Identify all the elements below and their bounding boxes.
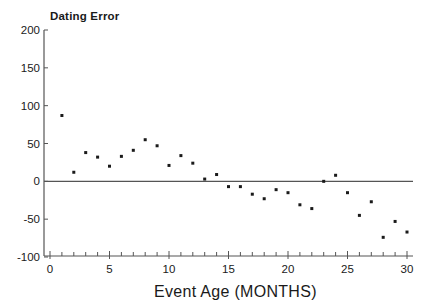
- data-point: [120, 155, 123, 158]
- data-point: [108, 165, 111, 168]
- data-point: [227, 185, 230, 188]
- data-point: [346, 191, 349, 194]
- data-point: [203, 178, 206, 181]
- y-tick-label: 100: [21, 100, 40, 112]
- data-point: [156, 144, 159, 147]
- data-point: [132, 149, 135, 152]
- data-point: [275, 188, 278, 191]
- data-point: [322, 180, 325, 183]
- x-tick-label: 15: [222, 263, 235, 275]
- data-point: [298, 203, 301, 206]
- y-tick-label: -50: [23, 213, 40, 225]
- data-point: [334, 174, 337, 177]
- data-point: [287, 191, 290, 194]
- data-point: [84, 151, 87, 154]
- data-point: [310, 207, 313, 210]
- y-tick-label: 50: [27, 138, 40, 150]
- y-tick-label: 0: [34, 175, 40, 187]
- data-point: [179, 154, 182, 157]
- data-point: [358, 214, 361, 217]
- data-point: [72, 171, 75, 174]
- x-axis-label: Event Age (MONTHS): [154, 283, 317, 301]
- y-tick-label: 150: [21, 62, 40, 74]
- plot-area: -100-50050100150200051015202530: [0, 0, 426, 308]
- x-tick-label: 10: [163, 263, 176, 275]
- data-point: [239, 185, 242, 188]
- data-point: [251, 193, 254, 196]
- data-points: [60, 114, 408, 239]
- data-point: [370, 200, 373, 203]
- scatter-chart: Dating Error -100-5005010015020005101520…: [0, 0, 426, 308]
- data-point: [382, 236, 385, 239]
- data-point: [144, 138, 147, 141]
- y-tick-label: 200: [21, 24, 40, 36]
- y-tick-label: -100: [17, 251, 40, 263]
- data-point: [168, 164, 171, 167]
- axes: -100-50050100150200051015202530: [17, 24, 413, 275]
- data-point: [96, 156, 99, 159]
- data-point: [406, 231, 409, 234]
- data-point: [263, 197, 266, 200]
- x-tick-label: 5: [106, 263, 112, 275]
- x-tick-label: 25: [341, 263, 354, 275]
- x-tick-label: 0: [47, 263, 53, 275]
- data-point: [60, 114, 63, 117]
- data-point: [215, 173, 218, 176]
- x-tick-label: 20: [282, 263, 295, 275]
- data-point: [191, 162, 194, 165]
- data-point: [394, 220, 397, 223]
- x-tick-label: 30: [401, 263, 414, 275]
- chart-title: Dating Error: [50, 10, 120, 22]
